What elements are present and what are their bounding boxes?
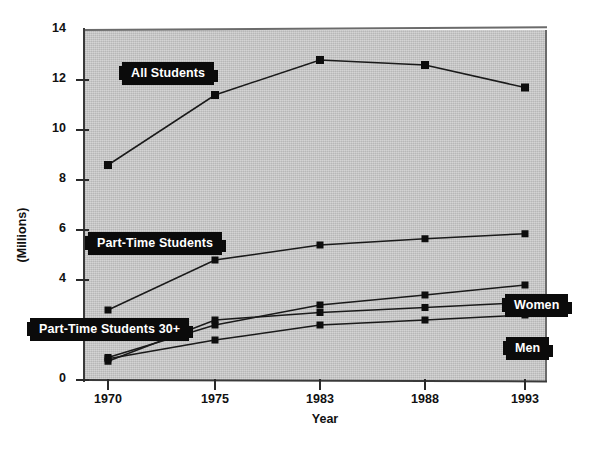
data-point-marker xyxy=(422,292,429,299)
series-callout-women: Women xyxy=(505,294,568,317)
data-point-marker xyxy=(422,317,429,324)
plot-wrapper: 02468101214 19701975198319881993 (Millio… xyxy=(0,0,608,449)
series-callout-part-time-students-30: Part-Time Students 30+ xyxy=(30,318,189,341)
series-callout-men: Men xyxy=(506,337,549,360)
data-point-marker xyxy=(521,84,529,92)
series-callout-part-time-students: Part-Time Students xyxy=(88,232,222,255)
data-point-marker xyxy=(105,307,112,314)
series-layer xyxy=(0,0,608,449)
chart-figure: 02468101214 19701975198319881993 (Millio… xyxy=(0,0,608,449)
data-point-marker xyxy=(317,309,324,316)
data-point-marker xyxy=(422,304,429,311)
data-point-marker xyxy=(421,61,429,69)
data-point-marker xyxy=(317,322,324,329)
data-point-marker xyxy=(104,161,112,169)
data-point-marker xyxy=(212,317,219,324)
data-point-marker xyxy=(212,337,219,344)
data-point-marker xyxy=(316,56,324,64)
data-point-marker xyxy=(422,235,429,242)
data-point-marker xyxy=(522,230,529,237)
series-callout-all-students: All Students xyxy=(122,62,214,85)
data-point-marker xyxy=(317,242,324,249)
data-point-marker xyxy=(212,257,219,264)
data-point-marker xyxy=(105,355,112,362)
data-point-marker xyxy=(522,282,529,289)
data-point-marker xyxy=(211,91,219,99)
data-point-marker xyxy=(317,302,324,309)
